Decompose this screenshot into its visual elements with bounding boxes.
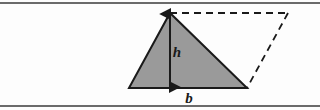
base-label: b <box>185 90 193 106</box>
figure-container: h b <box>0 0 320 110</box>
height-label: h <box>173 44 181 60</box>
geometry-diagram: h b <box>0 0 320 110</box>
